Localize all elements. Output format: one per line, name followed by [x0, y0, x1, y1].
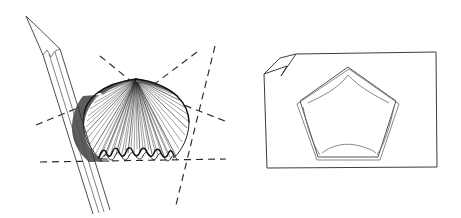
figure-root	[0, 0, 461, 218]
figure-canvas	[0, 0, 461, 218]
figure-background	[0, 0, 461, 218]
